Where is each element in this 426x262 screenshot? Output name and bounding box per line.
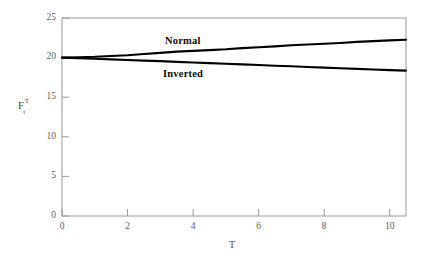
y-tick-label-20: 20 <box>36 52 56 62</box>
y-tick-label-10: 10 <box>36 132 56 142</box>
x-tick-label-6: 6 <box>249 222 269 232</box>
x-axis-title: T <box>212 240 252 250</box>
series-label-inverted: Inverted <box>163 69 203 80</box>
y-axis-title-subscript: t <box>23 108 25 116</box>
y-tick-label-0: 0 <box>36 211 56 221</box>
y-tick-label-5: 5 <box>36 171 56 181</box>
series-label-normal: Normal <box>165 36 201 47</box>
x-tick-label-2: 2 <box>118 222 138 232</box>
y-tick-label-25: 25 <box>36 13 56 23</box>
x-tick-label-4: 4 <box>183 222 203 232</box>
x-tick-label-8: 8 <box>314 222 334 232</box>
y-axis-title-superscript: T <box>25 97 29 105</box>
figure-container: 25 20 15 10 5 0 0 2 4 6 8 10 FTt T Norma… <box>0 0 426 262</box>
x-tick-label-10: 10 <box>380 222 400 232</box>
x-tick-label-0: 0 <box>52 222 72 232</box>
y-tick-label-15: 15 <box>36 92 56 102</box>
y-axis-title: FTt <box>18 99 30 114</box>
